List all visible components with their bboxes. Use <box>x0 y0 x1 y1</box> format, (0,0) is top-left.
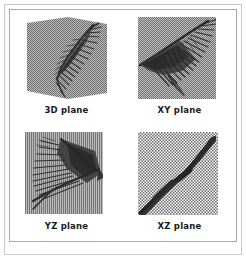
panel-xz-graphic <box>134 129 226 219</box>
panel-yz-label: YZ plane <box>45 222 88 231</box>
panel-yz-canvas <box>21 129 113 219</box>
panel-xz-plane: XZ plane <box>123 126 236 242</box>
figure-root: 3D plane <box>0 0 246 259</box>
panel-yz-graphic <box>21 129 113 219</box>
panel-yz-plane: YZ plane <box>10 126 123 242</box>
panel-xy-graphic <box>134 13 226 103</box>
panel-xy-plane: XY plane <box>123 10 236 126</box>
panel-3d-plane: 3D plane <box>10 10 123 126</box>
panel-3d-canvas <box>21 13 113 103</box>
panel-grid: 3D plane <box>10 10 236 241</box>
panel-3d-graphic <box>21 13 113 103</box>
panel-xy-label: XY plane <box>158 106 202 115</box>
panel-xy-canvas <box>134 13 226 103</box>
panel-3d-label: 3D plane <box>44 106 88 115</box>
panel-xz-label: XZ plane <box>158 222 202 231</box>
panel-xz-canvas <box>134 129 226 219</box>
